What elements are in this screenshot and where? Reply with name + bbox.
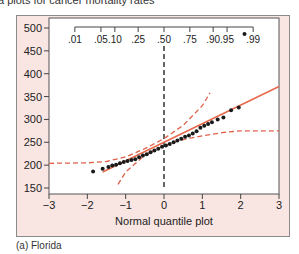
top-axis-tick-label: .10 xyxy=(108,34,122,45)
top-axis-tick-label: .25 xyxy=(131,34,145,45)
data-point xyxy=(164,143,168,147)
data-point xyxy=(137,155,141,159)
data-point xyxy=(175,138,179,142)
top-axis-tick-label: .01 xyxy=(68,34,82,45)
data-point xyxy=(216,117,220,121)
data-point xyxy=(198,126,202,130)
data-point xyxy=(206,122,210,126)
data-point xyxy=(202,124,206,128)
data-point xyxy=(145,152,149,156)
x-axis-label: Normal quantile plot xyxy=(115,215,213,227)
data-point xyxy=(91,170,95,174)
data-point xyxy=(106,165,110,169)
y-tick-label: 350 xyxy=(24,91,42,103)
x-tick-label: −2 xyxy=(81,199,94,211)
y-tick-label: 300 xyxy=(24,113,42,125)
y-tick-label: 200 xyxy=(24,159,42,171)
data-point xyxy=(221,116,225,120)
top-axis-tick-label: .05 xyxy=(94,34,108,45)
data-point xyxy=(160,145,164,149)
data-point xyxy=(149,150,153,154)
data-point xyxy=(133,157,137,161)
data-point xyxy=(129,158,133,162)
data-point xyxy=(156,147,160,151)
y-tick-label: 450 xyxy=(24,45,42,57)
data-point xyxy=(210,120,214,124)
y-tick-label: 400 xyxy=(24,68,42,80)
normal-quantile-plot: 150200250300350400450500−3−2−10123Normal… xyxy=(0,0,299,254)
data-point xyxy=(237,106,241,110)
x-tick-label: 0 xyxy=(161,199,167,211)
y-tick-label: 500 xyxy=(24,22,42,34)
data-point xyxy=(172,140,176,144)
top-axis-tick-label: .95 xyxy=(220,34,234,45)
data-point xyxy=(118,161,122,165)
x-tick-label: 3 xyxy=(276,199,282,211)
data-point xyxy=(110,164,114,168)
data-point xyxy=(141,154,145,158)
data-point xyxy=(101,167,105,171)
x-tick-label: −3 xyxy=(43,199,56,211)
data-point xyxy=(179,137,183,141)
data-point xyxy=(191,132,195,136)
top-axis-tick-label: .99 xyxy=(246,34,260,45)
data-point xyxy=(152,149,156,153)
data-point xyxy=(195,129,199,133)
data-point xyxy=(114,163,118,167)
data-point xyxy=(187,133,191,137)
data-point xyxy=(243,32,247,36)
top-axis-tick-label: .50 xyxy=(157,34,171,45)
top-axis-tick-label: .90 xyxy=(206,34,220,45)
figure-subcaption: (a) Florida xyxy=(16,240,62,251)
data-point xyxy=(183,135,187,139)
data-point xyxy=(126,159,130,163)
y-tick-label: 150 xyxy=(24,182,42,194)
y-tick-label: 250 xyxy=(24,136,42,148)
data-point xyxy=(122,160,126,164)
data-point xyxy=(229,108,233,112)
x-tick-label: −1 xyxy=(119,199,132,211)
x-tick-label: 1 xyxy=(199,199,205,211)
data-point xyxy=(168,142,172,146)
top-axis-tick-label: .75 xyxy=(183,34,197,45)
x-tick-label: 2 xyxy=(238,199,244,211)
